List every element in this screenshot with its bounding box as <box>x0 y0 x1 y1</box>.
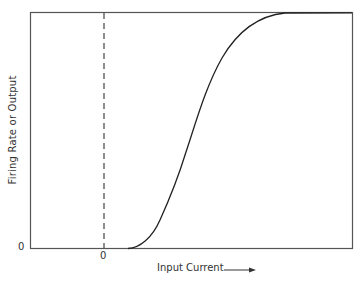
plot-frame <box>31 13 353 249</box>
arrow-icon <box>224 268 256 273</box>
sigmoid-chart <box>0 0 363 284</box>
x-axis-label: Input Current <box>157 262 224 273</box>
y-axis-label-text: Firing Rate or Output <box>7 75 18 184</box>
x-axis-zero-tick: 0 <box>100 250 106 261</box>
y-axis-zero-tick: 0 <box>18 241 24 252</box>
sigmoid-curve <box>128 13 352 249</box>
